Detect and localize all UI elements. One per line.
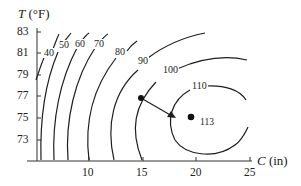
y-axis-title: T (°F): [18, 7, 50, 20]
x-tick-25: 25: [244, 167, 256, 179]
y-tick-73: 73: [17, 134, 29, 146]
contour-100: [135, 82, 156, 160]
maximum-label: 113: [199, 118, 215, 128]
contour-90: [111, 70, 138, 160]
contour-label-50: 50: [58, 40, 70, 50]
y-tick-75: 75: [17, 112, 29, 124]
contour-70: [67, 48, 95, 160]
contour-label-110: 110: [191, 81, 208, 91]
contour-60: [54, 48, 77, 160]
contour-label-60: 60: [74, 39, 86, 49]
contour-label-90: 90: [137, 56, 149, 66]
maximum-point: [188, 114, 195, 121]
x-tick-10: 10: [82, 167, 94, 179]
contour-label-100: 100: [162, 65, 179, 75]
y-tick-79: 79: [17, 69, 29, 81]
y-tick-77: 77: [17, 90, 29, 102]
gradient-arrow: [141, 98, 176, 118]
contour-label-70: 70: [93, 39, 105, 49]
contour-50: [41, 52, 58, 160]
x-axis-title: C (in): [257, 154, 288, 167]
contour-plot: [0, 0, 301, 186]
start-point: [138, 95, 144, 101]
y-tick-83: 83: [17, 26, 29, 38]
y-tick-81: 81: [17, 47, 29, 59]
x-tick-20: 20: [190, 167, 202, 179]
contour-label-40: 40: [43, 48, 55, 58]
contour-label-80: 80: [114, 47, 126, 57]
x-tick-15: 15: [136, 167, 148, 179]
